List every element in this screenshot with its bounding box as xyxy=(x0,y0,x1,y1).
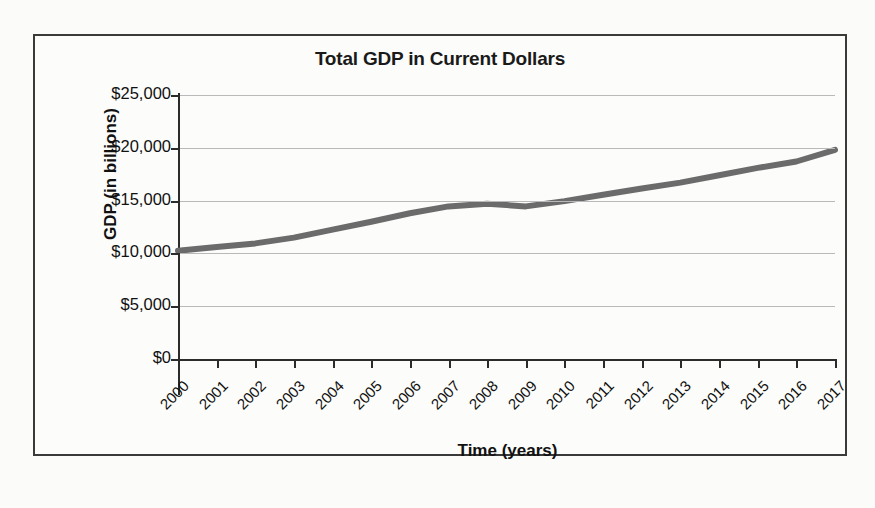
x-tick-label-2014: 2014 xyxy=(689,377,734,422)
gridline-5000 xyxy=(178,306,835,307)
x-tick-label-2012: 2012 xyxy=(611,377,656,422)
x-tick-2014 xyxy=(719,359,721,368)
y-tick-label-15000: $15,000 xyxy=(71,190,171,209)
x-tick-2010 xyxy=(564,359,566,368)
y-tick-25000 xyxy=(171,95,180,97)
y-tick-5000 xyxy=(171,306,180,308)
y-tick-label-0: $0 xyxy=(71,348,171,367)
x-tick-2009 xyxy=(526,359,528,368)
gridline-20000 xyxy=(178,148,835,149)
chart-figure-frame: Total GDP in Current Dollars $0$5,000$10… xyxy=(33,34,847,456)
x-axis-title: Time (years) xyxy=(178,441,837,461)
y-tick-10000 xyxy=(171,253,180,255)
x-tick-label-2013: 2013 xyxy=(650,377,695,422)
x-tick-2006 xyxy=(410,359,412,368)
x-tick-label-2009: 2009 xyxy=(495,377,540,422)
x-tick-2012 xyxy=(642,359,644,368)
x-tick-2013 xyxy=(680,359,682,368)
x-tick-label-2006: 2006 xyxy=(379,377,424,422)
x-tick-label-2005: 2005 xyxy=(341,377,386,422)
y-tick-label-20000: $20,000 xyxy=(71,137,171,156)
gridline-25000 xyxy=(178,95,835,96)
x-tick-label-2007: 2007 xyxy=(418,377,463,422)
x-tick-2015 xyxy=(758,359,760,368)
x-tick-2016 xyxy=(796,359,798,368)
y-tick-label-25000: $25,000 xyxy=(71,84,171,103)
x-tick-2001 xyxy=(217,359,219,368)
x-tick-2003 xyxy=(294,359,296,368)
x-tick-2011 xyxy=(603,359,605,368)
x-tick-2002 xyxy=(255,359,257,368)
gdp-line-series xyxy=(178,95,835,359)
x-tick-2017 xyxy=(835,359,837,368)
x-tick-label-2004: 2004 xyxy=(302,377,347,422)
x-tick-label-2015: 2015 xyxy=(727,377,772,422)
x-tick-label-2003: 2003 xyxy=(263,377,308,422)
y-tick-label-5000: $5,000 xyxy=(71,295,171,314)
gridline-15000 xyxy=(178,201,835,202)
x-tick-label-2008: 2008 xyxy=(457,377,502,422)
plot-area xyxy=(178,95,835,359)
x-axis-line xyxy=(178,359,837,361)
x-tick-label-2017: 2017 xyxy=(804,377,849,422)
x-tick-2000 xyxy=(178,359,180,368)
x-tick-label-2002: 2002 xyxy=(225,377,270,422)
x-tick-label-2010: 2010 xyxy=(534,377,579,422)
x-tick-label-2001: 2001 xyxy=(186,377,231,422)
y-tick-15000 xyxy=(171,201,180,203)
gridline-10000 xyxy=(178,253,835,254)
x-tick-2005 xyxy=(371,359,373,368)
x-tick-label-2011: 2011 xyxy=(573,377,618,422)
y-axis-title: GDP (in billions) xyxy=(101,64,121,284)
y-tick-label-10000: $10,000 xyxy=(71,242,171,261)
x-tick-2004 xyxy=(333,359,335,368)
scanned-page-background: Total GDP in Current Dollars $0$5,000$10… xyxy=(0,0,875,508)
x-tick-2007 xyxy=(449,359,451,368)
y-tick-20000 xyxy=(171,148,180,150)
x-tick-label-2016: 2016 xyxy=(766,377,811,422)
x-tick-2008 xyxy=(487,359,489,368)
